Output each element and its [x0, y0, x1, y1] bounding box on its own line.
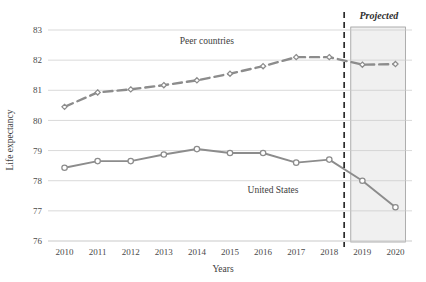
x-tick-label: 2018 — [320, 247, 339, 257]
data-point-marker — [260, 64, 265, 69]
data-point-marker — [294, 55, 299, 60]
x-tick-label: 2011 — [89, 247, 107, 257]
x-tick-label: 2020 — [386, 247, 405, 257]
data-point-marker — [161, 152, 166, 157]
y-tick-label: 77 — [33, 206, 43, 216]
series-line-united-states — [65, 149, 396, 207]
y-tick-label: 82 — [33, 55, 42, 65]
data-point-marker — [227, 150, 232, 155]
united-states-label: United States — [248, 185, 299, 195]
y-axis-tick-labels: 7677787980818283 — [33, 25, 43, 246]
x-tick-label: 2015 — [221, 247, 240, 257]
data-point-marker — [194, 78, 199, 83]
y-tick-label: 80 — [33, 116, 43, 126]
series-line-peer-countries — [65, 57, 396, 107]
data-point-marker — [327, 55, 332, 60]
y-tick-label: 78 — [33, 176, 43, 186]
data-point-marker — [194, 146, 199, 151]
data-point-marker — [128, 87, 133, 92]
data-point-marker — [327, 157, 332, 162]
data-point-marker — [62, 165, 67, 170]
x-tick-label: 2014 — [188, 247, 207, 257]
y-tick-label: 83 — [33, 25, 43, 35]
data-point-marker — [260, 150, 265, 155]
x-tick-label: 2013 — [155, 247, 174, 257]
data-point-marker — [360, 178, 365, 183]
data-point-marker — [293, 160, 298, 165]
y-tick-label: 79 — [33, 146, 43, 156]
data-point-marker — [227, 71, 232, 76]
y-tick-label: 81 — [33, 85, 42, 95]
data-point-marker — [161, 83, 166, 88]
data-point-marker — [95, 158, 100, 163]
projected-label: Projected — [359, 10, 399, 21]
y-axis-title: Life expectancy — [5, 109, 15, 170]
y-tick-label: 76 — [33, 236, 43, 246]
x-tick-label: 2017 — [287, 247, 306, 257]
x-tick-label: 2012 — [122, 247, 140, 257]
chart-container: 7677787980818283 20102011201220132014201… — [0, 0, 426, 282]
x-axis-title: Years — [212, 264, 234, 274]
data-point-marker — [393, 205, 398, 210]
x-tick-label: 2010 — [56, 247, 75, 257]
data-point-marker — [128, 158, 133, 163]
x-axis-tick-labels: 2010201120122013201420152016201720182019… — [56, 247, 405, 257]
x-tick-label: 2016 — [254, 247, 273, 257]
life-expectancy-line-chart: 7677787980818283 20102011201220132014201… — [0, 0, 426, 282]
data-series-group — [62, 55, 398, 210]
peer-countries-label: Peer countries — [180, 36, 234, 46]
x-tick-label: 2019 — [353, 247, 372, 257]
